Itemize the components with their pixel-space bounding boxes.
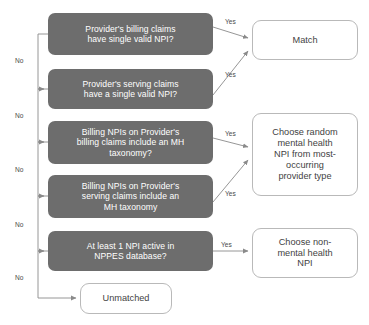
decision-line: Provider's serving claims xyxy=(82,79,178,89)
terminal-line: Match xyxy=(292,35,317,46)
decision-line: Provider's billing claims xyxy=(85,24,175,34)
terminal-line: Choose random xyxy=(272,127,337,138)
edge-no-3 xyxy=(38,142,48,196)
edge-no-1 xyxy=(38,34,48,89)
edge-label-no-3: No xyxy=(15,166,24,173)
edge-label-yes-1: Yes xyxy=(225,18,236,25)
terminal-line: NPI from most- xyxy=(272,149,337,160)
terminal-line: occurring xyxy=(272,160,337,171)
terminal-line: NPI xyxy=(277,258,332,269)
edge-label-no-2: No xyxy=(15,112,24,119)
terminal-choose-random-mh-npi[interactable]: Choose random mental health NPI from mos… xyxy=(252,113,358,196)
edge-label-no-5: No xyxy=(15,274,24,281)
decision-line: serving claims include an xyxy=(82,191,180,201)
flowchart-canvas: Provider's billing claims have single va… xyxy=(0,0,369,325)
terminal-line: Unmatched xyxy=(103,293,150,304)
edge-label-no-1: No xyxy=(15,57,24,64)
edge-label-yes-2: Yes xyxy=(225,71,236,78)
terminal-line: Choose non- xyxy=(277,237,332,248)
decision-line: NPPES database? xyxy=(87,251,175,261)
edge-no-2 xyxy=(38,89,48,142)
decision-line: billing claims include an MH xyxy=(77,137,184,147)
terminal-match[interactable]: Match xyxy=(252,20,358,60)
decision-line: taxonomy? xyxy=(77,148,184,158)
terminal-line: mental health xyxy=(277,248,332,259)
decision-serving-mh-taxonomy[interactable]: Billing NPIs on Provider's serving claim… xyxy=(48,175,213,218)
terminal-line: mental health xyxy=(272,138,337,149)
decision-billing-single-npi[interactable]: Provider's billing claims have single va… xyxy=(48,13,213,55)
decision-line: MH taxonomy xyxy=(82,202,180,212)
decision-line: Billing NPIs on Provider's xyxy=(82,181,180,191)
decision-line: have a single valid NPI? xyxy=(82,89,178,99)
terminal-choose-non-mh-npi[interactable]: Choose non- mental health NPI xyxy=(252,228,358,278)
edge-label-yes-4: Yes xyxy=(225,190,236,197)
edge-yes-3 xyxy=(213,138,248,147)
decision-line: have single valid NPI? xyxy=(85,34,175,44)
edge-no-4 xyxy=(38,196,48,251)
decision-line: Billing NPIs on Provider's xyxy=(77,127,184,137)
edge-yes-1 xyxy=(213,27,248,38)
decision-billing-mh-taxonomy[interactable]: Billing NPIs on Provider's billing claim… xyxy=(48,121,213,164)
decision-serving-single-npi[interactable]: Provider's serving claims have a single … xyxy=(48,69,213,109)
edge-label-yes-3: Yes xyxy=(225,130,236,137)
decision-nppes-active-npi[interactable]: At least 1 NPI active in NPPES database? xyxy=(48,231,213,271)
decision-line: At least 1 NPI active in xyxy=(87,241,175,251)
edge-label-no-4: No xyxy=(15,221,24,228)
terminal-line: provider type xyxy=(272,171,337,182)
edge-label-yes-5: Yes xyxy=(221,241,232,248)
terminal-unmatched[interactable]: Unmatched xyxy=(80,283,172,314)
